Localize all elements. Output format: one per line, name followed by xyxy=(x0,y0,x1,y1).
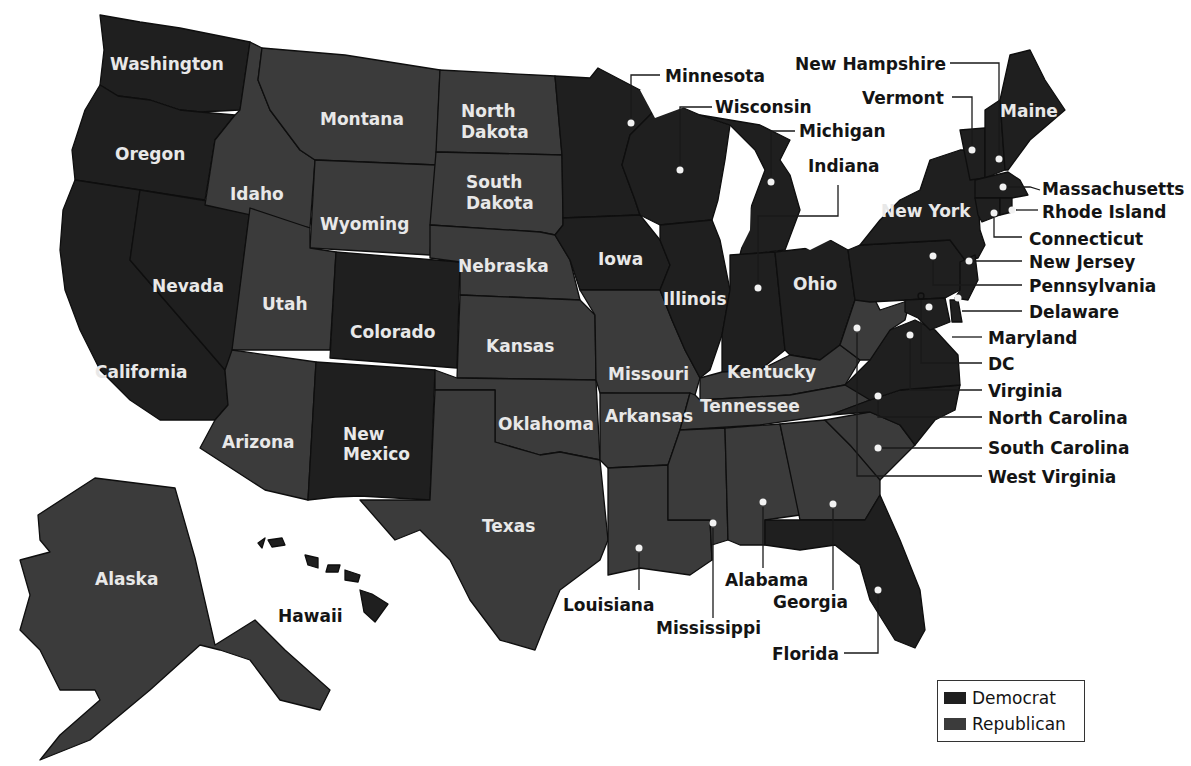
label-arkansas: Arkansas xyxy=(605,406,693,426)
label-wisconsin: Wisconsin xyxy=(715,97,812,117)
marker-dot-minnesota xyxy=(628,120,635,127)
label-idaho: Idaho xyxy=(230,184,284,204)
state-DE[interactable] xyxy=(950,300,962,322)
label-nebraska: Nebraska xyxy=(458,256,549,276)
state-WY[interactable] xyxy=(310,160,436,255)
state-CO[interactable] xyxy=(330,252,460,368)
label-new-mexico-1: New xyxy=(343,424,385,444)
label-georgia: Georgia xyxy=(773,592,848,612)
legend: Democrat Republican xyxy=(937,680,1085,742)
label-washington: Washington xyxy=(110,54,224,74)
label-new-york: New York xyxy=(881,201,971,221)
state-HI-5[interactable] xyxy=(345,570,360,582)
label-iowa: Iowa xyxy=(598,249,643,269)
label-michigan: Michigan xyxy=(799,121,886,141)
label-alabama: Alabama xyxy=(725,570,808,590)
label-south-carolina: South Carolina xyxy=(988,438,1129,458)
label-virginia: Virginia xyxy=(988,381,1062,401)
marker-dot-wisconsin xyxy=(677,167,684,174)
marker-dot-new-jersey xyxy=(966,258,973,265)
us-map: Washington Oregon California Nevada Idah… xyxy=(0,0,1191,766)
marker-dot-pennsylvania xyxy=(930,253,937,260)
marker-dot-north-carolina xyxy=(875,393,882,400)
label-texas: Texas xyxy=(482,516,535,536)
label-ohio: Ohio xyxy=(793,274,837,294)
label-maine: Maine xyxy=(1000,101,1058,121)
label-south-dakota-2: Dakota xyxy=(466,193,534,213)
label-louisiana: Louisiana xyxy=(563,595,654,615)
label-north-dakota-1: North xyxy=(461,101,516,121)
label-colorado: Colorado xyxy=(350,322,435,342)
leader-connecticut xyxy=(994,218,1022,237)
state-HI-2[interactable] xyxy=(268,538,285,547)
state-HI-4[interactable] xyxy=(326,565,340,572)
marker-dot-louisiana xyxy=(636,545,643,552)
label-florida: Florida xyxy=(772,644,839,664)
label-arizona: Arizona xyxy=(222,432,295,452)
marker-dot-south-carolina xyxy=(875,445,882,452)
marker-dot-georgia xyxy=(830,501,837,508)
label-kentucky: Kentucky xyxy=(727,362,816,382)
legend-label-republican: Republican xyxy=(972,714,1066,734)
label-delaware: Delaware xyxy=(1029,302,1119,322)
label-connecticut: Connecticut xyxy=(1029,229,1143,249)
label-west-virginia: West Virginia xyxy=(988,467,1116,487)
label-maryland: Maryland xyxy=(988,328,1077,348)
label-california: California xyxy=(95,362,187,382)
label-south-dakota-1: South xyxy=(466,172,522,192)
legend-label-democrat: Democrat xyxy=(972,688,1056,708)
label-montana: Montana xyxy=(320,109,404,129)
label-new-mexico-2: Mexico xyxy=(343,444,410,464)
marker-dot-new-hampshire xyxy=(996,156,1003,163)
label-nevada: Nevada xyxy=(152,276,224,296)
label-alaska: Alaska xyxy=(95,569,158,589)
label-dc: DC xyxy=(988,354,1015,374)
label-new-hampshire: New Hampshire xyxy=(795,54,946,74)
label-indiana: Indiana xyxy=(808,156,879,176)
state-IN[interactable] xyxy=(722,252,785,372)
label-pennsylvania: Pennsylvania xyxy=(1029,276,1156,296)
marker-dot-mississippi xyxy=(710,520,717,527)
marker-dot-vermont xyxy=(969,147,976,154)
marker-dot-massachusetts xyxy=(1000,184,1007,191)
label-north-carolina: North Carolina xyxy=(988,408,1128,428)
legend-item-democrat: Democrat xyxy=(944,685,1078,711)
label-massachusetts: Massachusetts xyxy=(1042,179,1184,199)
label-oregon: Oregon xyxy=(115,144,185,164)
label-oklahoma: Oklahoma xyxy=(498,414,594,434)
legend-item-republican: Republican xyxy=(944,711,1078,737)
state-HI-1[interactable] xyxy=(258,538,265,548)
label-vermont: Vermont xyxy=(862,88,944,108)
label-kansas: Kansas xyxy=(486,336,554,356)
marker-dot-michigan xyxy=(768,179,775,186)
state-PA[interactable] xyxy=(848,240,965,302)
legend-swatch-republican xyxy=(944,718,966,730)
label-missouri: Missouri xyxy=(608,364,689,384)
state-HI-6[interactable] xyxy=(360,590,388,622)
label-tennessee: Tennessee xyxy=(700,396,800,416)
marker-dot-rhode-island xyxy=(1009,207,1016,214)
marker-dot-connecticut xyxy=(991,210,998,217)
label-minnesota: Minnesota xyxy=(665,66,765,86)
label-new-jersey: New Jersey xyxy=(1029,252,1135,272)
label-wyoming: Wyoming xyxy=(320,214,409,234)
label-mississippi: Mississippi xyxy=(656,618,761,638)
marker-dot-west-virginia xyxy=(854,325,861,332)
state-HI-3[interactable] xyxy=(305,555,318,568)
legend-swatch-democrat xyxy=(944,692,966,704)
state-DC[interactable] xyxy=(918,293,924,299)
marker-dot-indiana xyxy=(755,285,762,292)
marker-dot-alabama xyxy=(760,499,767,506)
label-utah: Utah xyxy=(262,294,308,314)
marker-dot-virginia xyxy=(907,332,914,339)
label-illinois: Illinois xyxy=(663,289,727,309)
marker-dot-florida xyxy=(875,587,882,594)
label-rhode-island: Rhode Island xyxy=(1042,202,1167,222)
label-hawaii: Hawaii xyxy=(278,606,343,626)
marker-dot-maryland xyxy=(926,304,933,311)
label-north-dakota-2: Dakota xyxy=(461,122,529,142)
marker-dot-delaware xyxy=(955,295,962,302)
